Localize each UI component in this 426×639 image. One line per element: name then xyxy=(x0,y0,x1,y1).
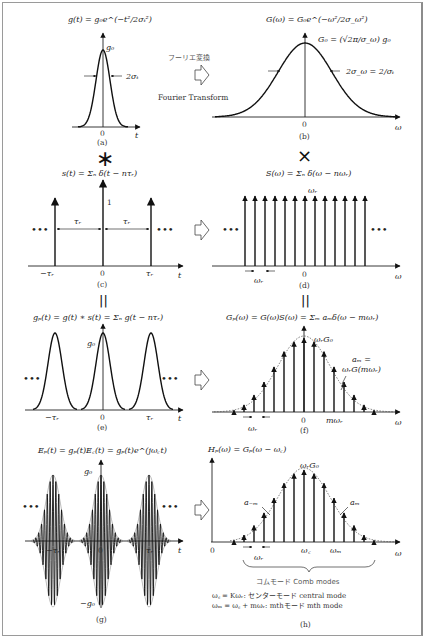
panel-g-peak-label: g₀ xyxy=(84,467,93,476)
transform-arrow-icon xyxy=(195,370,209,390)
panel-e-ellipsis-right: ••• xyxy=(161,373,179,384)
panel-f-spacing-label: ωᵣ xyxy=(248,424,258,433)
panel-a-equation: g(t) = g₀e^(−t²/2σₜ²) xyxy=(68,15,152,24)
fourier-comb-diagram: g(t) = g₀e^(−t²/2σₜ²) g₀ 2σₜ 0 t (a) ∗ フ… xyxy=(0,0,426,639)
panel-c: s(t) = Σₙ δ(t − nτᵣ) τᵣ τᵣ 1 ••• ••• −τᵣ… xyxy=(28,169,183,289)
panel-c-x-label: t xyxy=(178,271,182,280)
panel-d-top-label: ωᵣ xyxy=(308,186,318,195)
fourier-transform-jp-label: フーリエ変換 xyxy=(168,53,210,62)
fourier-transform-en-label: Fourier Transform xyxy=(158,93,228,102)
panel-e-equation: gₚ(t) = g(t) ∗ s(t) = Σₙ g(t − nτᵣ) xyxy=(33,313,163,322)
panel-h: Hₚ(ω) = Gₚ(ω − ω꜀) ωᵣG₀ a₋ₘ aₘ ωᵣ 0 ω꜀ ω… xyxy=(207,445,402,629)
panel-g-x-label: t xyxy=(178,546,182,555)
panel-d-equation: S(ω) = Σₙ δ(ω − nωᵣ) xyxy=(266,169,351,178)
panel-c-tick-zero: 0 xyxy=(100,269,105,278)
panel-f: Gₚ(ω) = G(ω)S(ω) = Σₘ aₘδ(ω − mωᵣ) ωᵣG₀ … xyxy=(212,313,402,435)
panel-b: G(ω) = G₀e^(−ω²/2σ_ω²) G₀ = (√2π/σ_ω) g₀… xyxy=(212,15,402,141)
panel-f-equation: Gₚ(ω) = G(ω)S(ω) = Σₘ aₘδ(ω − mωᵣ) xyxy=(226,313,378,322)
panel-f-am-label-2: ωᵣG(mωᵣ) xyxy=(342,365,381,374)
panel-b-caption: (b) xyxy=(299,132,310,141)
panel-h-peak-label: ωᵣG₀ xyxy=(300,461,320,470)
panel-g-ellipsis-left: ••• xyxy=(22,501,40,512)
panel-f-peak-label: ωᵣG₀ xyxy=(314,335,334,344)
panel-h-equation: Hₚ(ω) = Gₚ(ω − ω꜀) xyxy=(207,445,286,454)
panel-e: gₚ(t) = g(t) ∗ s(t) = Σₙ g(t − nτᵣ) g₀ •… xyxy=(23,313,183,432)
a-neg-pointer xyxy=(262,507,270,515)
panel-g-tick-zero: 0 xyxy=(98,546,103,555)
panel-h-brace-label: コムモード Comb modes xyxy=(256,578,340,586)
frequency-comb-impulses xyxy=(245,196,365,266)
panel-c-tick-neg: −τᵣ xyxy=(40,269,54,278)
panel-h-a-neg-label: a₋ₘ xyxy=(244,498,258,507)
panel-a-x-label: t xyxy=(135,131,139,140)
panel-b-x-label: ω xyxy=(395,123,402,132)
panel-b-equation: G(ω) = G₀e^(−ω²/2σ_ω²) xyxy=(266,15,368,24)
panel-c-tick-pos: τᵣ xyxy=(146,269,153,278)
panel-d-origin: 0 xyxy=(302,270,307,279)
equals-operator-left: || xyxy=(99,293,108,308)
panel-g-ellipsis-right: ••• xyxy=(161,501,179,512)
panel-h-note-mth: ωₘ = ω꜀ + mωᵣ: mthモード mth mode xyxy=(212,602,343,610)
panel-d-x-label: ω xyxy=(395,272,402,281)
panel-d-ellipsis-left: ••• xyxy=(222,224,240,235)
convolution-operator: ∗ xyxy=(96,146,114,171)
panel-c-spacing-right: τᵣ xyxy=(123,217,130,226)
panel-g-tick-neg: −τᵣ xyxy=(46,546,60,555)
transform-arrow-icon xyxy=(195,65,209,85)
panel-f-am-label-1: aₘ = xyxy=(352,355,371,364)
panel-b-origin: 0 xyxy=(302,120,307,129)
panel-e-tick-neg: −τᵣ xyxy=(45,413,59,422)
comb-mode-stems xyxy=(234,338,374,412)
panel-b-peak-label: G₀ = (√2π/σ_ω) g₀ xyxy=(318,35,391,44)
panel-g-equation: Eₚ(t) = gₚ(t)E꜀(t) = gₚ(t)e^(jω꜀t) xyxy=(37,446,167,455)
panel-f-origin: 0 xyxy=(301,416,306,425)
panel-d-caption: (d) xyxy=(299,281,310,290)
panel-g: Eₚ(t) = gₚ(t)E꜀(t) = gₚ(t)e^(jω꜀t) g₀ −g… xyxy=(22,446,183,624)
panel-a: g(t) = g₀e^(−t²/2σₜ²) g₀ 2σₜ 0 t (a) xyxy=(68,15,152,147)
panel-e-tick-zero: 0 xyxy=(100,413,105,422)
panel-b-width-label: 2σ_ω = 2/σₜ xyxy=(345,67,394,76)
fourier-transform-indicator: フーリエ変換 Fourier Transform xyxy=(158,53,228,102)
panel-h-origin: 0 xyxy=(210,546,215,555)
panel-g-tick-pos: τᵣ xyxy=(146,546,153,555)
carrier-oscillation xyxy=(129,475,169,605)
panel-g-caption: (g) xyxy=(96,615,107,624)
transform-arrow-icon xyxy=(195,500,209,520)
panel-f-x-label: ω xyxy=(395,418,402,427)
panel-e-peak-label: g₀ xyxy=(87,339,96,348)
panel-f-m-label: mωᵣ xyxy=(326,416,343,425)
panel-h-center-label: ω꜀ xyxy=(301,546,311,555)
equals-operator-right: || xyxy=(301,293,310,308)
panel-a-origin: 0 xyxy=(100,129,105,138)
panel-e-caption: (e) xyxy=(97,423,107,432)
panel-c-ellipsis-left: ••• xyxy=(31,224,49,235)
panel-c-spacing-left: τᵣ xyxy=(74,217,81,226)
panel-h-a-pos-label: aₘ xyxy=(350,498,360,507)
panel-a-peak-label: g₀ xyxy=(106,43,115,52)
panel-d-spacing-label: ωᵣ xyxy=(254,276,264,285)
panel-c-unit-label: 1 xyxy=(107,198,112,207)
panel-d: S(ω) = Σₙ δ(ω − nωᵣ) ωᵣ ••• ••• ωᵣ 0 ω (… xyxy=(212,169,402,290)
panel-c-equation: s(t) = Σₙ δ(t − nτᵣ) xyxy=(62,169,137,178)
panel-d-ellipsis-right: ••• xyxy=(370,224,388,235)
panel-h-spacing-label: ωᵣ xyxy=(254,553,264,562)
panel-g-neg-peak-label: −g₀ xyxy=(80,599,96,608)
panel-e-ellipsis-left: ••• xyxy=(23,373,41,384)
panel-c-ellipsis-right: ••• xyxy=(156,224,174,235)
panel-h-note-central: ω꜀ = Kωᵣ: センターモード central mode xyxy=(212,591,346,600)
panel-e-tick-pos: τᵣ xyxy=(146,413,153,422)
panel-h-x-label: ω xyxy=(395,549,402,558)
panel-f-caption: (f) xyxy=(300,426,309,435)
transform-arrow-icon xyxy=(195,220,209,240)
panel-a-width-label: 2σₜ xyxy=(125,72,139,81)
panel-h-caption: (h) xyxy=(300,620,311,629)
panel-h-m-label: ωₘ xyxy=(330,546,342,555)
panel-e-x-label: t xyxy=(178,414,182,423)
multiplication-operator: × xyxy=(297,145,312,166)
carrier-oscillation xyxy=(33,475,73,605)
panel-c-caption: (c) xyxy=(97,280,107,289)
